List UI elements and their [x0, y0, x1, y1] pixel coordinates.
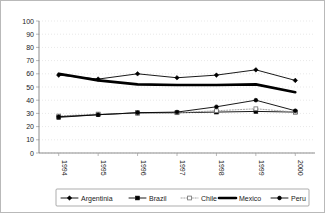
- legend-label: Mexico: [239, 195, 261, 202]
- data-point-marker: [254, 98, 258, 102]
- data-point-marker: [254, 68, 259, 73]
- series-peru: [57, 98, 297, 118]
- y-tick-label: 20: [26, 123, 34, 130]
- data-point-marker: [215, 109, 219, 113]
- y-tick-label: 60: [26, 70, 34, 77]
- x-tick-label: 1997: [179, 160, 186, 176]
- data-point-marker: [135, 72, 140, 77]
- y-tick-label: 70: [26, 57, 34, 64]
- data-point-marker: [215, 105, 219, 109]
- y-tick-label: 90: [26, 31, 34, 38]
- data-point-marker: [214, 73, 219, 78]
- legend-label: Brazil: [149, 195, 167, 202]
- y-tick-label: 80: [26, 44, 34, 51]
- data-point-marker: [96, 113, 100, 117]
- data-point-marker: [175, 110, 179, 114]
- chart-canvas: 0102030405060708090100 19941995199619971…: [1, 1, 325, 213]
- x-tick-label: 1994: [61, 160, 68, 176]
- data-point-marker: [278, 196, 282, 200]
- legend-label: Argentinia: [81, 195, 113, 203]
- data-point-marker: [57, 115, 61, 119]
- x-tick-label: 1999: [258, 160, 265, 176]
- y-tick-label: 40: [26, 97, 34, 104]
- x-tick-label: 1996: [140, 160, 147, 176]
- x-tick-label: 2000: [297, 160, 304, 176]
- data-point-marker: [293, 109, 297, 113]
- y-tick-label: 30: [26, 110, 34, 117]
- legend-label: Chile: [201, 195, 217, 202]
- x-tick-label: 1998: [218, 160, 225, 176]
- x-axis-ticks: [59, 153, 296, 156]
- y-axis-tick-labels: 0102030405060708090100: [22, 18, 34, 157]
- y-tick-label: 0: [30, 150, 34, 157]
- line-chart-figure: 0102030405060708090100 19941995199619971…: [0, 0, 325, 213]
- legend-label: Peru: [291, 195, 306, 202]
- y-axis-ticks: [36, 21, 39, 153]
- data-point-marker: [175, 75, 180, 80]
- y-tick-label: 10: [26, 136, 34, 143]
- y-tick-label: 50: [26, 84, 34, 91]
- data-point-marker: [293, 78, 298, 83]
- data-point-marker: [136, 196, 140, 200]
- data-point-marker: [188, 196, 192, 200]
- data-series-layer: [56, 68, 297, 120]
- x-tick-label: 1995: [100, 160, 107, 176]
- x-axis-tick-labels: 1994199519961997199819992000: [61, 160, 305, 176]
- data-point-marker: [254, 107, 258, 111]
- y-tick-label: 100: [22, 18, 34, 25]
- data-point-marker: [136, 111, 140, 115]
